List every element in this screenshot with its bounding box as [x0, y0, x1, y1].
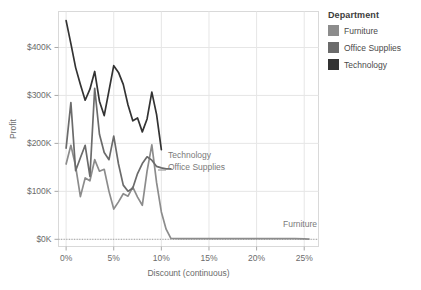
legend-swatch-icon — [328, 59, 339, 70]
x-tick-label: 15% — [200, 253, 217, 263]
legend-item-technology[interactable]: Technology — [328, 59, 420, 70]
x-axis-title: Discount (continuous) — [147, 268, 229, 278]
x-tick-label: 10% — [153, 253, 170, 263]
office-supplies-annotation: Office Supplies — [168, 162, 225, 172]
legend-items: FurnitureOffice SuppliesTechnology — [328, 25, 420, 70]
technology-annotation: Technology — [168, 150, 212, 160]
y-tick-label: $100K — [27, 186, 52, 196]
x-tick-label: 0% — [60, 253, 73, 263]
legend-title: Department — [328, 10, 420, 20]
legend-item-office-supplies[interactable]: Office Supplies — [328, 42, 420, 53]
y-tick-label: $300K — [27, 90, 52, 100]
x-tick-label: 20% — [248, 253, 265, 263]
legend-swatch-icon — [328, 42, 339, 53]
furniture-annotation: Furniture — [283, 219, 317, 229]
y-axis-title: Profit — [8, 118, 18, 138]
x-tick-label: 25% — [296, 253, 313, 263]
line-chart: $0K$100K$200K$300K$400K0%5%10%15%20%25%D… — [0, 0, 421, 290]
y-tick-label: $0K — [36, 234, 51, 244]
legend-swatch-icon — [328, 25, 339, 36]
legend-item-label: Office Supplies — [344, 43, 401, 53]
y-tick-label: $400K — [27, 42, 52, 52]
legend-item-label: Furniture — [344, 26, 378, 36]
legend: Department FurnitureOffice SuppliesTechn… — [328, 10, 420, 76]
plot-frame — [59, 12, 319, 247]
y-tick-label: $200K — [27, 138, 52, 148]
legend-item-furniture[interactable]: Furniture — [328, 25, 420, 36]
legend-item-label: Technology — [344, 60, 387, 70]
x-tick-label: 5% — [108, 253, 121, 263]
